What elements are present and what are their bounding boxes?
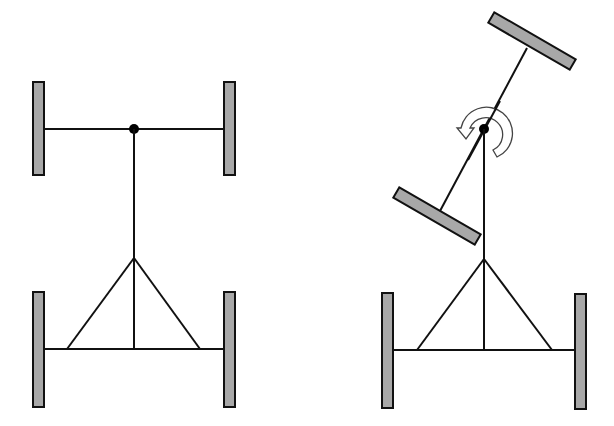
- front-left-wheel: [33, 82, 44, 175]
- rear-right-wheel: [224, 292, 235, 407]
- rear-right-wheel: [575, 294, 586, 409]
- chassis-turned: [382, 12, 586, 409]
- front-right-wheel-rotated: [488, 12, 575, 69]
- frame-right-strut: [484, 259, 552, 350]
- frame-left-strut: [417, 259, 484, 350]
- front-left-wheel-rotated: [393, 187, 480, 244]
- frame-right-strut: [134, 258, 200, 349]
- rear-left-wheel: [382, 293, 393, 408]
- rear-left-wheel: [33, 292, 44, 407]
- chassis-straight: [33, 82, 235, 407]
- steering-diagram: [0, 0, 614, 426]
- frame-left-strut: [67, 258, 134, 349]
- front-right-wheel: [224, 82, 235, 175]
